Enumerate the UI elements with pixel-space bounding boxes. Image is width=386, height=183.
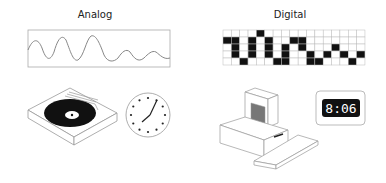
- illustration-canvas: 8:06: [0, 0, 386, 183]
- analog-clock-icon: [126, 93, 170, 137]
- desktop-computer-icon: [220, 88, 318, 169]
- record-player-icon: [28, 88, 117, 145]
- digital-clock-icon: 8:06: [316, 91, 365, 125]
- analog-waveform: [28, 30, 170, 67]
- binary-grid: [223, 30, 365, 65]
- digital-clock-display: 8:06: [325, 101, 356, 116]
